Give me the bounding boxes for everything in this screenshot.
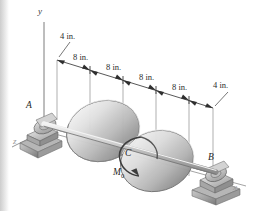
label-bearing-b: B [208,152,214,162]
dimension-label-d3: 8 in. [106,62,121,72]
dimension-label-d4: 8 in. [139,72,154,82]
dimension-label-d6: 4 in. [213,80,228,90]
label-bearing-a: A [26,100,32,110]
label-moment-m0: M0 [113,167,124,179]
bearing-a [20,113,62,158]
label-point-c: C [125,148,131,158]
dimension-label-d1: 4 in. [60,31,75,41]
axis-label-y: y [38,6,42,16]
page-edge-band [0,0,9,211]
dimension-label-d5: 8 in. [172,82,187,92]
moment-symbol: M [113,167,121,177]
moment-subscript: 0 [121,172,124,179]
diagram-svg [0,0,260,211]
figure-canvas: y x z A B C M0 4 in. 8 in. 8 in. 8 in. 8… [0,0,260,211]
axis-label-z: z [13,136,17,146]
axis-label-x: x [233,182,237,192]
dimension-label-d2: 8 in. [73,52,88,62]
